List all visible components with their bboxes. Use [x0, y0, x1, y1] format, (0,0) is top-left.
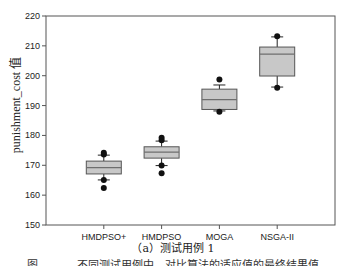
outlier-point: [159, 170, 165, 176]
outlier-point: [101, 185, 107, 191]
box-series: [86, 33, 294, 191]
boxplot-chart: 150160170180190200210220 HMDPSO+HMDPSOMO…: [0, 0, 346, 240]
outlier-point: [159, 135, 165, 141]
box-moga: [202, 77, 237, 115]
y-axis-label: punishment_cost 值: [6, 57, 24, 153]
y-tick-label: 160: [25, 190, 40, 200]
y-tick-label: 220: [25, 11, 40, 21]
box-hmdpso: [144, 135, 179, 177]
y-tick-label: 190: [25, 101, 40, 111]
y-tick-label: 210: [25, 41, 40, 51]
outlier-point: [274, 33, 280, 39]
outlier-point: [101, 177, 107, 183]
x-axis: HMDPSO+HMDPSOMOGANSGA-II: [81, 225, 294, 240]
y-axis: 150160170180190200210220: [25, 11, 46, 230]
subfigure-caption: （a）测试用例 1: [0, 239, 346, 255]
y-tick-label: 170: [25, 160, 40, 170]
iqr-box: [260, 47, 295, 76]
outlier-point: [216, 77, 222, 83]
y-tick-label: 180: [25, 130, 40, 140]
y-tick-label: 200: [25, 71, 40, 81]
outlier-point: [159, 163, 165, 169]
box-hmdpso-: [86, 150, 121, 191]
box-nsga-ii: [260, 33, 295, 90]
y-tick-label: 150: [25, 220, 40, 230]
outlier-point: [274, 85, 280, 91]
figure-caption-cut: 图 ．．．．．不同测试用例中，对比算法的适应值的最终结果值: [0, 258, 346, 266]
outlier-point: [101, 150, 107, 156]
outlier-point: [216, 109, 222, 115]
